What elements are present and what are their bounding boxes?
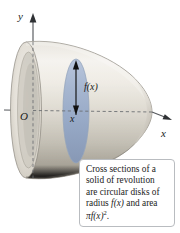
caption-line-4: radius f(x) and area [86, 198, 169, 209]
caption-line-5: πf(x)2. [86, 209, 169, 222]
figure-container: y x O f(x) x Cross sections of a solid o… [0, 0, 180, 233]
caption-line-4-post: and area [124, 198, 158, 208]
caption-line-2: solid of revolution [86, 175, 169, 186]
x-position-label: x [70, 114, 74, 124]
radius-function-label: f(x) [84, 82, 98, 92]
caption-line-3: are circular disks of [86, 187, 169, 198]
caption-line-1: Cross sections of a [86, 164, 169, 175]
caption-box: Cross sections of a solid of revolution … [79, 159, 175, 227]
y-axis-label: y [18, 11, 23, 22]
y-axis-arrowhead [30, 13, 37, 23]
caption-line-4-pre: radius [86, 198, 111, 208]
caption-line-5-math: f(x) [91, 211, 104, 221]
x-axis-arrowhead [163, 114, 173, 120]
x-axis-label: x [161, 128, 166, 139]
caption-line-5-post: . [107, 211, 109, 221]
origin-label: O [20, 111, 28, 122]
caption-line-4-math: f(x) [111, 198, 124, 208]
